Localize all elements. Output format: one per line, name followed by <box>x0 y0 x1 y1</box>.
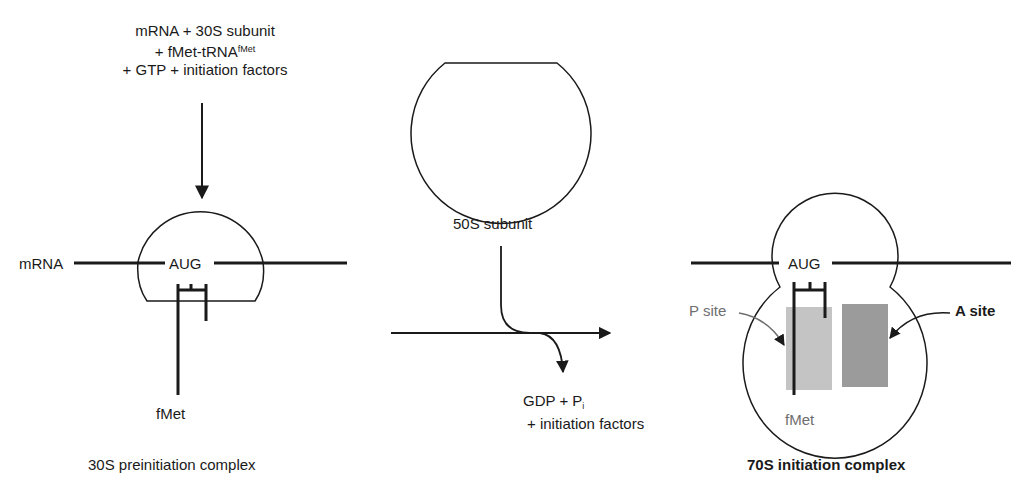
subunit-50s-shape <box>411 63 591 223</box>
complex-70s-diagram <box>691 193 1011 458</box>
inputs-label: mRNA + 30S subunit + fMet-tRNAfMet + GTP… <box>80 22 330 79</box>
inputs-line-3: + GTP + initiation factors <box>80 61 330 79</box>
caption-70s: 70S initiation complex <box>747 456 905 474</box>
fmet-label-70s: fMet <box>785 411 814 429</box>
complex-30s-diagram <box>74 212 347 395</box>
inputs-line-1: mRNA + 30S subunit <box>80 22 330 40</box>
reaction-arrows <box>391 246 610 372</box>
caption-30s: 30S preinitiation complex <box>88 456 256 474</box>
byproducts-line-2: + initiation factors <box>523 415 644 433</box>
codon-label-30s: AUG <box>169 255 202 273</box>
codon-label-70s: AUG <box>788 255 821 273</box>
byproducts-label: GDP + Pi + initiation factors <box>523 392 644 433</box>
a-site-label: A site <box>955 302 995 320</box>
mrna-label: mRNA <box>19 255 63 273</box>
p-site-label: P site <box>689 302 726 320</box>
a-site-box <box>842 304 888 387</box>
fmet-label-30s: fMet <box>156 405 185 423</box>
byproducts-line-1: GDP + Pi <box>523 392 644 415</box>
caption-50s: 50S subunit <box>453 215 532 233</box>
ribosome-70s-shape <box>743 193 927 458</box>
inputs-line-2: + fMet-tRNAfMet <box>80 40 330 61</box>
